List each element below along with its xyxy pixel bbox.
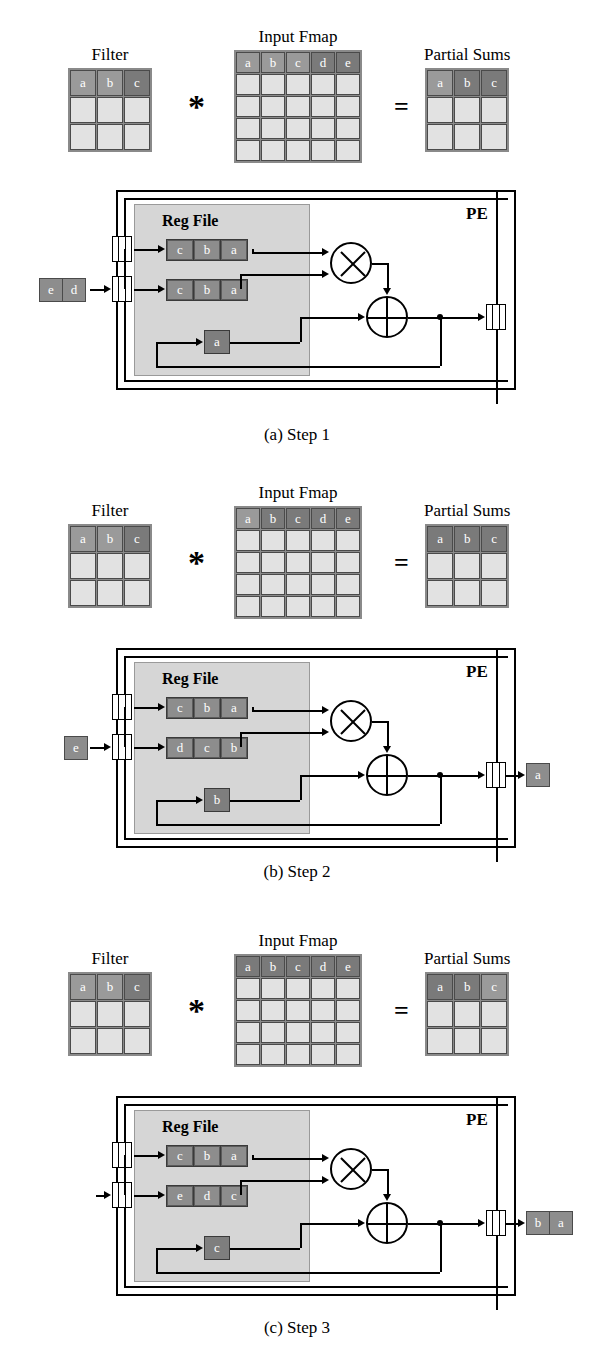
grid-cell <box>236 574 260 595</box>
input-buffer-bottom[interactable] <box>112 276 132 302</box>
input-fmap-group: Input Fmapabcde <box>234 28 362 163</box>
grid-cell <box>236 1022 260 1043</box>
wire-h <box>230 800 300 802</box>
accumulator-register: a <box>204 330 230 354</box>
output-buffer[interactable] <box>486 762 506 788</box>
grid-cell <box>286 1022 310 1043</box>
wire-h <box>372 1169 387 1171</box>
reg-cell: b <box>194 1146 220 1166</box>
grid-cell <box>261 74 285 95</box>
grid-cell <box>236 74 260 95</box>
grid-cell <box>311 596 335 617</box>
wire-h <box>90 289 105 291</box>
input-buffer-top[interactable] <box>112 236 132 262</box>
reg-row-activations: dcb <box>166 737 248 759</box>
grid-cell <box>97 1028 123 1054</box>
wire-v <box>240 1180 242 1195</box>
wire-h <box>372 721 387 723</box>
grid-cell <box>481 1001 507 1027</box>
input-fmap-grid: abcde <box>234 506 362 619</box>
wire-h <box>408 317 440 319</box>
input-fmap-group: Input Fmapabcde <box>234 932 362 1067</box>
pe-input-cell: d <box>63 279 85 301</box>
wire-v <box>124 249 126 289</box>
add-stroke <box>386 298 388 336</box>
grid-cell <box>454 1028 480 1054</box>
reg-cell: a <box>221 1146 247 1166</box>
grid-cell-labeled: c <box>286 508 310 529</box>
filter-label: Filter <box>68 46 152 65</box>
input-buffer-top[interactable] <box>112 694 132 720</box>
grid-cell <box>261 978 285 999</box>
reg-cell: b <box>221 738 247 758</box>
grid-cell <box>261 596 285 617</box>
multiplier-icon <box>330 1148 372 1190</box>
arrow-right-icon <box>358 313 365 321</box>
grid-cell <box>311 1044 335 1065</box>
reg-cell: d <box>194 1186 220 1206</box>
input-buffer-bottom[interactable] <box>112 1182 132 1208</box>
pe-output-cell: b <box>527 1212 549 1234</box>
pe-diagram-step3: Reg FilePEcbaedccba <box>0 1088 594 1318</box>
grid-cell <box>236 596 260 617</box>
equation-row-step2: Filterabc*Input Fmapabcde=Partial Sumsab… <box>0 484 594 634</box>
grid-cell <box>286 1000 310 1021</box>
wire-v <box>496 330 498 404</box>
grid-cell <box>454 124 480 150</box>
input-buffer-bottom[interactable] <box>112 734 132 760</box>
grid-cell-labeled: b <box>454 526 480 552</box>
grid-cell <box>481 1028 507 1054</box>
wire-h <box>252 252 323 254</box>
grid-cell-labeled: a <box>236 52 260 73</box>
wire-h <box>372 263 387 265</box>
grid-cell-labeled: a <box>427 526 453 552</box>
pe-label: PE <box>466 662 488 682</box>
wire-v <box>240 274 242 289</box>
pe-output-cell: a <box>527 764 549 786</box>
reg-cell: b <box>194 280 220 300</box>
arrow-right-icon <box>322 1154 329 1162</box>
input-fmap-label: Input Fmap <box>234 932 362 951</box>
partial-sums-label: Partial Sums <box>424 950 510 969</box>
add-stroke <box>386 756 388 794</box>
filter-group: Filterabc <box>68 950 152 1056</box>
wire-v <box>496 192 498 304</box>
output-buffer[interactable] <box>486 1210 506 1236</box>
wire-h <box>300 775 359 777</box>
convolution-operator: * <box>188 546 205 580</box>
grid-cell <box>236 1000 260 1021</box>
grid-cell <box>124 580 150 606</box>
partial-sums-label: Partial Sums <box>424 502 510 521</box>
grid-cell <box>311 530 335 551</box>
arrow-right-icon <box>158 1191 165 1199</box>
reg-cell: c <box>221 1186 247 1206</box>
grid-cell <box>261 530 285 551</box>
grid-cell-labeled: b <box>261 52 285 73</box>
wire-h <box>240 1180 323 1182</box>
wire-v <box>440 1223 442 1272</box>
wire-v <box>300 317 302 342</box>
reg-file-label: Reg File <box>162 212 218 230</box>
caption-step1: (a) Step 1 <box>0 425 594 445</box>
arrow-right-icon <box>104 285 111 293</box>
input-buffer-top[interactable] <box>112 1142 132 1168</box>
grid-cell-labeled: a <box>70 526 96 552</box>
partial-sums-grid: abc <box>425 68 509 152</box>
reg-row-weights: cba <box>166 1145 248 1167</box>
wire-h <box>440 1223 479 1225</box>
grid-cell <box>97 1001 123 1027</box>
wire-h <box>252 1158 323 1160</box>
wire-h <box>156 1272 440 1274</box>
grid-cell <box>236 140 260 161</box>
convolution-operator: * <box>188 994 205 1028</box>
arrow-right-icon <box>358 771 365 779</box>
grid-cell <box>311 978 335 999</box>
reg-file-label: Reg File <box>162 670 218 688</box>
grid-cell <box>124 1028 150 1054</box>
wire-v <box>124 1155 126 1195</box>
filter-label: Filter <box>68 502 152 521</box>
buf-seg <box>126 237 131 261</box>
wire-v <box>156 1248 158 1272</box>
output-buffer[interactable] <box>486 304 506 330</box>
reg-cell: a <box>221 698 247 718</box>
